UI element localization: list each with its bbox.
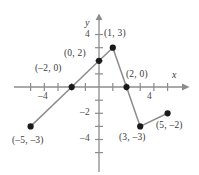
y-axis — [96, 14, 103, 173]
x-axis-label: x — [172, 70, 177, 80]
graph-figure: y x –4 4 4 –2 –4 (–5, –3) (–2, 0) (0, 2)… — [0, 0, 199, 175]
point-label-1-3: (1, 3) — [104, 29, 126, 39]
data-point — [110, 45, 116, 51]
data-point — [28, 123, 34, 129]
data-point — [69, 84, 75, 90]
point-label-3-minus3: (3, –3) — [119, 133, 146, 143]
data-point — [96, 58, 102, 64]
y-axis-label: y — [85, 18, 90, 28]
x-tick-label-4: 4 — [147, 92, 152, 102]
x-tick-label-minus-4: –4 — [38, 92, 48, 102]
data-point — [165, 110, 171, 116]
point-label-minus2-0: (–2, 0) — [35, 64, 62, 74]
point-label-0-2: (0, 2) — [64, 49, 86, 59]
data-point — [123, 84, 129, 90]
x-axis — [14, 83, 190, 90]
point-label-5-minus2: (5, –2) — [156, 121, 183, 131]
coordinate-plane — [0, 0, 199, 175]
data-point — [137, 123, 143, 129]
point-label-2-0: (2, 0) — [126, 70, 148, 80]
y-tick-label-minus-2: –2 — [80, 108, 90, 118]
y-tick-label-minus-4: –4 — [80, 134, 90, 144]
y-tick-label-4: 4 — [85, 30, 90, 40]
point-label-minus5-minus3: (–5, –3) — [12, 136, 44, 146]
